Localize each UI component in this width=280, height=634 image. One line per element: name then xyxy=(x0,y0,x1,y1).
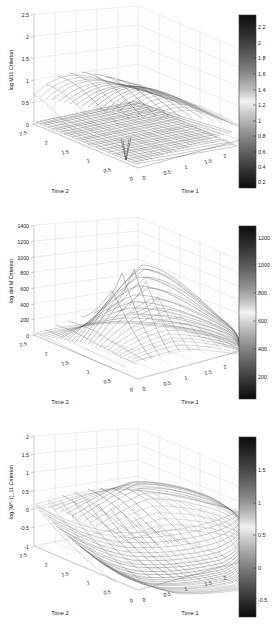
panel-1-cbtick-5: 1.2 xyxy=(258,102,266,108)
panel-1-ytick-1: 0.5 xyxy=(103,166,112,174)
panel-2-xtick-1: 0.5 xyxy=(163,379,172,387)
panel-2-zaxis-label: log det M Criterion xyxy=(8,259,14,303)
panel-3-cbtick-0: -0.5 xyxy=(258,597,267,603)
panel-2-canvas: 0 200 400 600 800 1000 1200 1400 2.5 2 1… xyxy=(0,211,280,422)
panel-1-cbtick-6: 1.4 xyxy=(258,87,266,93)
panel-2-ytick-4: 2 xyxy=(44,350,48,357)
panel-1-ztick-5: 2.5 xyxy=(22,12,29,18)
panel-2-colorbar[interactable]: 1200 1000 800 600 400 200 xyxy=(239,226,270,399)
panel-3-ztick-1: -0.5 xyxy=(20,525,29,531)
panel-3-z-ticks: -1 -0.5 0 0.5 1 1.5 2 xyxy=(20,434,34,550)
panel-3-ytick-1: 0.5 xyxy=(103,588,112,596)
panel-2-xtick-0: 0 xyxy=(142,385,146,392)
panel-3-ytick-0: 0 xyxy=(129,597,133,604)
panel-1-ytick-3: 1.5 xyxy=(61,148,70,156)
panel-2-ztick-6: 1200 xyxy=(17,239,29,245)
panel-3-ztick-4: 1 xyxy=(26,470,29,476)
panel-3-log-minv11: -1 -0.5 0 0.5 1 1.5 2 2.5 2 1.5 1 0.5 0 … xyxy=(0,422,280,633)
three-panel-figure: 0 0.5 1 1.5 2 2.5 2.5 2 1.5 1 0.5 0 0 0.… xyxy=(0,0,280,634)
panel-3-ytick-5: 2.5 xyxy=(19,551,28,559)
panel-1-ztick-4: 2 xyxy=(26,34,29,40)
panel-3-cbtick-1: 0 xyxy=(258,565,261,571)
panel-1-ztick-1: 0.5 xyxy=(22,100,29,106)
panel-3-cbtick-4: 1.5 xyxy=(258,467,266,473)
panel-3-y-ticks: 2.5 2 1.5 1 0.5 0 xyxy=(19,551,134,604)
panel-1-z-ticks: 0 0.5 1 1.5 2 2.5 xyxy=(22,12,34,128)
panel-3-canvas: -1 -0.5 0 0.5 1 1.5 2 2.5 2 1.5 1 0.5 0 … xyxy=(0,422,280,634)
panel-3-cbtick-2: 0.5 xyxy=(258,532,266,538)
panel-3-zaxis-label: log [M^-1]_11 Criterion xyxy=(8,465,14,519)
panel-1-xtick-4: 2 xyxy=(223,152,227,159)
panel-2-x-ticks: 0 0.5 1 1.5 2 2.5 xyxy=(142,356,251,392)
panel-3-ytick-2: 1 xyxy=(86,579,90,586)
panel-2-cbtick-0: 200 xyxy=(258,374,267,380)
panel-2-ztick-7: 1400 xyxy=(17,223,29,229)
panel-1-ztick-2: 1 xyxy=(26,78,29,84)
panel-1-cbtick-9: 2 xyxy=(258,40,261,46)
panel-2-ytick-1: 0.5 xyxy=(103,377,112,385)
panel-3-ztick-0: -1 xyxy=(24,544,29,550)
panel-3-ytick-4: 2 xyxy=(44,561,48,568)
panel-2-ytick-2: 1 xyxy=(86,368,90,375)
panel-2-cbtick-4: 1000 xyxy=(258,262,270,268)
panel-2-xtick-3: 1.5 xyxy=(204,368,213,376)
panel-1-ztick-3: 1.5 xyxy=(22,56,29,62)
panel-1-cbtick-1: 0.4 xyxy=(258,164,266,170)
panel-3-cbtick-3: 1 xyxy=(258,500,261,506)
panel-2-xtick-2: 1 xyxy=(184,374,188,381)
panel-1-ytick-2: 1 xyxy=(86,157,90,164)
panel-2-cbtick-3: 800 xyxy=(258,290,267,296)
panel-1-yaxis-label: Time 2 xyxy=(51,188,69,194)
panel-2-ztick-1: 200 xyxy=(20,317,29,323)
panel-1-xtick-2: 1 xyxy=(184,163,188,170)
panel-1-colorbar[interactable]: 2.2 2 1.8 1.6 1.4 1.2 1 0.8 0.6 0.4 0.2 xyxy=(239,15,266,188)
panel-2-z-ticks: 0 200 400 600 800 1000 1200 1400 xyxy=(17,223,34,339)
panel-1-cbtick-3: 0.8 xyxy=(258,133,266,139)
panel-1-cbtick-4: 1 xyxy=(258,118,261,124)
panel-2-ytick-0: 0 xyxy=(129,386,133,393)
panel-3-colorbar[interactable]: 1.5 1 0.5 0 -0.5 xyxy=(239,437,267,617)
panel-2-ytick-3: 1.5 xyxy=(61,359,70,367)
panel-1-cbtick-2: 0.6 xyxy=(258,149,266,155)
panel-3-xtick-2: 1 xyxy=(184,585,188,592)
panel-1-cbtick-10: 2.2 xyxy=(258,24,266,30)
panel-2-ztick-5: 1000 xyxy=(17,255,29,261)
panel-2-yaxis-label: Time 2 xyxy=(51,399,69,405)
panel-1-ytick-4: 2 xyxy=(44,139,48,146)
panel-2-xtick-4: 2 xyxy=(223,363,227,370)
panel-1-canvas: 0 0.5 1 1.5 2 2.5 2.5 2 1.5 1 0.5 0 0 0.… xyxy=(0,0,280,211)
panel-2-log-det-m: 0 200 400 600 800 1000 1200 1400 2.5 2 1… xyxy=(0,211,280,422)
panel-2-ztick-3: 600 xyxy=(20,286,29,292)
panel-3-ztick-5: 1.5 xyxy=(22,452,29,458)
panel-1-ytick-5: 2.5 xyxy=(19,129,28,137)
panel-2-cbtick-5: 1200 xyxy=(258,235,270,241)
panel-1-log-m11: 0 0.5 1 1.5 2 2.5 2.5 2 1.5 1 0.5 0 0 0.… xyxy=(0,0,280,211)
panel-2-xaxis-label: Time 1 xyxy=(181,399,199,405)
panel-1-cbtick-0: 0.2 xyxy=(258,179,266,185)
panel-2-ztick-2: 400 xyxy=(20,302,29,308)
panel-1-axes-walls xyxy=(34,6,240,140)
panel-3-ztick-6: 2 xyxy=(26,434,29,440)
panel-2-ytick-5: 2.5 xyxy=(19,340,28,348)
panel-3-xtick-0: 0 xyxy=(142,596,146,603)
panel-1-y-ticks: 2.5 2 1.5 1 0.5 0 xyxy=(19,129,134,182)
panel-1-ytick-0: 0 xyxy=(129,175,133,182)
panel-1-xtick-1: 0.5 xyxy=(163,168,172,176)
panel-3-ztick-3: 0.5 xyxy=(22,489,29,495)
panel-1-zaxis-label: log M11 Criterion xyxy=(8,50,14,91)
panel-3-xaxis-label: Time 1 xyxy=(181,610,199,616)
panel-1-xtick-0: 0 xyxy=(142,174,146,181)
panel-1-ztick-0: 0 xyxy=(26,122,29,128)
panel-2-ztick-0: 0 xyxy=(26,333,29,339)
panel-2-cbtick-2: 600 xyxy=(258,318,267,324)
panel-3-yaxis-label: Time 2 xyxy=(51,610,69,616)
panel-2-ztick-4: 800 xyxy=(20,270,29,276)
panel-2-cbtick-1: 400 xyxy=(258,346,267,352)
panel-1-cbtick-7: 1.6 xyxy=(258,71,266,77)
panel-1-cbtick-8: 1.8 xyxy=(258,55,266,61)
panel-1-xaxis-label: Time 1 xyxy=(181,188,199,194)
panel-1-xtick-3: 1.5 xyxy=(204,157,213,165)
panel-2-y-ticks: 2.5 2 1.5 1 0.5 0 xyxy=(19,340,134,393)
panel-3-axes-walls xyxy=(34,428,240,562)
panel-3-ytick-3: 1.5 xyxy=(61,570,70,578)
